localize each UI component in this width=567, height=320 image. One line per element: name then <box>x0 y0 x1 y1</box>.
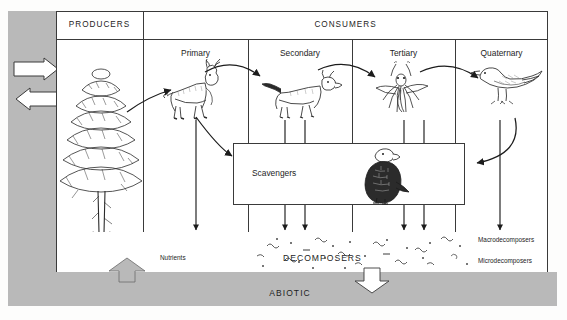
ecosystem-diagram: PRODUCERS CONSUMERS Primary Secondary Te… <box>0 0 567 320</box>
diagram-outer-frame <box>6 9 559 308</box>
figure-caption <box>150 310 550 320</box>
